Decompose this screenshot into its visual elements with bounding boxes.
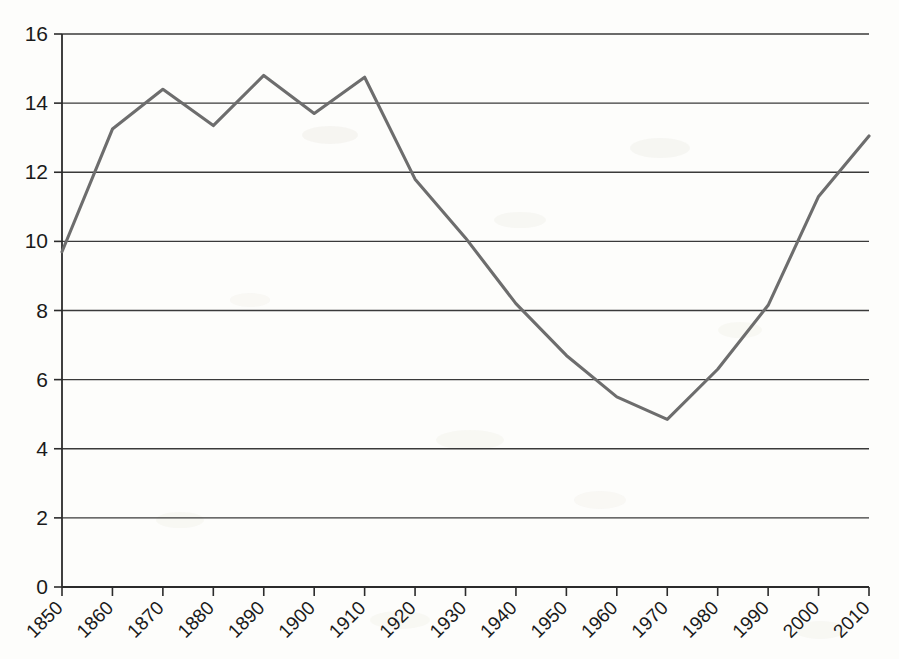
line-chart: 0246810121416 18501860187018801890190019… xyxy=(0,0,899,659)
y-tick-label-10: 10 xyxy=(25,229,48,252)
y-tick-label-16: 16 xyxy=(25,22,48,45)
y-tick-label-12: 12 xyxy=(25,160,48,183)
y-tick-label-6: 6 xyxy=(36,368,48,391)
y-tick-label-4: 4 xyxy=(36,437,48,460)
y-tick-label-14: 14 xyxy=(25,91,49,114)
y-tick-label-2: 2 xyxy=(36,506,48,529)
chart-container: 0246810121416 18501860187018801890190019… xyxy=(0,0,899,659)
y-tick-label-0: 0 xyxy=(36,575,48,598)
chart-background xyxy=(0,0,899,659)
y-tick-label-8: 8 xyxy=(36,299,48,322)
